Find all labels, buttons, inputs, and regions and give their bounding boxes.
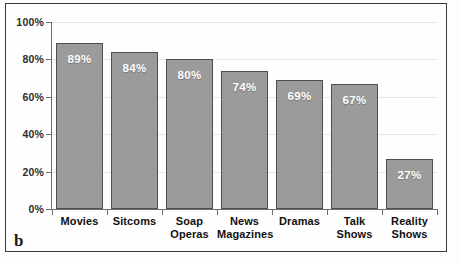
x-axis-tick-label: SoapOperas bbox=[162, 215, 217, 241]
bar-value-label: 69% bbox=[277, 90, 322, 102]
y-axis-tick-mark bbox=[46, 172, 51, 173]
y-axis-tick-label: 40% bbox=[22, 128, 44, 140]
x-axis-tick-label-line: Shows bbox=[327, 228, 382, 241]
gridline bbox=[52, 59, 437, 60]
bar[interactable]: 84% bbox=[111, 52, 158, 209]
bar-value-label: 89% bbox=[57, 53, 102, 65]
y-axis-tick-label: 80% bbox=[22, 53, 44, 65]
x-axis-tick-label-line: Magazines bbox=[217, 228, 272, 241]
y-axis-tick-mark bbox=[46, 59, 51, 60]
figure-panel: 0%20%40%60%80%100% 89%84%80%74%69%67%27%… bbox=[0, 0, 460, 264]
plot-area: 89%84%80%74%69%67%27% bbox=[52, 22, 437, 209]
x-axis-tick-label: Movies bbox=[52, 215, 107, 228]
x-axis-tick-label: RealityShows bbox=[382, 215, 437, 241]
bar-value-label: 84% bbox=[112, 62, 157, 74]
x-axis-tick-label-line: Soap bbox=[162, 215, 217, 228]
x-axis-tick-label-line: Sitcoms bbox=[107, 215, 162, 228]
y-axis-tick-mark bbox=[46, 97, 51, 98]
panel-letter-label: b bbox=[14, 231, 23, 251]
bar-value-label: 27% bbox=[387, 169, 432, 181]
x-axis-tick-label: Dramas bbox=[272, 215, 327, 228]
bar[interactable]: 67% bbox=[331, 84, 378, 209]
x-axis-line bbox=[51, 209, 438, 210]
x-axis-tick-label-line: Shows bbox=[382, 228, 437, 241]
bar[interactable]: 80% bbox=[166, 59, 213, 209]
y-axis-tick-mark bbox=[46, 209, 51, 210]
y-axis-tick-label: 20% bbox=[22, 166, 44, 178]
y-axis-tick-label: 60% bbox=[22, 91, 44, 103]
y-axis-tick-labels: 0%20%40%60%80%100% bbox=[0, 0, 44, 264]
x-axis-tick-label-line: Reality bbox=[382, 215, 437, 228]
y-axis-tick-label: 100% bbox=[16, 16, 44, 28]
bar[interactable]: 74% bbox=[221, 71, 268, 209]
x-axis-tick-label-line: Talk bbox=[327, 215, 382, 228]
bar[interactable]: 69% bbox=[276, 80, 323, 209]
bar-value-label: 67% bbox=[332, 94, 377, 106]
x-axis-tick-label-line: Movies bbox=[52, 215, 107, 228]
bar-value-label: 74% bbox=[222, 81, 267, 93]
bar[interactable]: 27% bbox=[386, 159, 433, 209]
bar-value-label: 80% bbox=[167, 69, 212, 81]
y-axis-tick-mark bbox=[46, 22, 51, 23]
gridline bbox=[52, 22, 437, 23]
x-axis-tick-label-line: Operas bbox=[162, 228, 217, 241]
x-axis-tick-label: TalkShows bbox=[327, 215, 382, 241]
y-axis-tick-label: 0% bbox=[28, 203, 44, 215]
x-axis-tick-label-line: Dramas bbox=[272, 215, 327, 228]
x-axis-tick-label-line: News bbox=[217, 215, 272, 228]
bar[interactable]: 89% bbox=[56, 43, 103, 209]
x-axis-tick-label: NewsMagazines bbox=[217, 215, 272, 241]
x-axis-tick-mark bbox=[52, 210, 53, 215]
x-axis-tick-mark bbox=[437, 210, 438, 215]
x-axis-tick-label: Sitcoms bbox=[107, 215, 162, 228]
y-axis-tick-mark bbox=[46, 134, 51, 135]
